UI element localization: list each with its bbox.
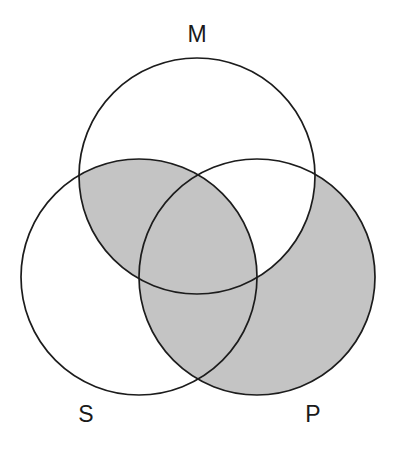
label-p: P: [305, 401, 320, 427]
label-s: S: [78, 401, 93, 427]
venn-diagram-canvas: M S P: [0, 0, 403, 449]
label-m: M: [187, 21, 206, 47]
venn-diagram-figure: M S P: [0, 0, 403, 449]
